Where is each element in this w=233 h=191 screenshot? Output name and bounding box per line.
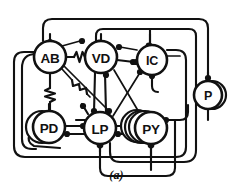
- node-pd-label: PD: [40, 121, 59, 136]
- edge-vd-lp-left: [94, 73, 95, 112]
- node-lp-label: LP: [92, 122, 109, 137]
- figure-caption: (a): [0, 168, 233, 183]
- synapse-dot-ic-vd: [116, 44, 122, 50]
- node-py-label: PY: [142, 122, 160, 137]
- node-vd-label: VD: [92, 51, 111, 66]
- edge-ab-vd-syn: [62, 41, 80, 46]
- synapse-dot-ab-vd: [79, 38, 85, 44]
- gap-junction-ab-vd-icon: [74, 52, 85, 62]
- edge-ab-lp: [62, 69, 72, 80]
- node-ab-label: AB: [40, 51, 60, 66]
- node-p-label: P: [204, 89, 212, 103]
- gap-junction-ab-pd-icon: [45, 88, 55, 102]
- edge-ic-vd: [120, 47, 137, 50]
- bus-right-trunk: [167, 105, 188, 120]
- node-ic-label: IC: [146, 54, 158, 68]
- circuit-figure: AB VD IC P PD LP PY (a): [0, 0, 233, 191]
- edge-ab-lp-b: [87, 94, 90, 97]
- synapse-dot-lp-up: [80, 103, 86, 109]
- circuit-diagram-svg: AB VD IC P PD LP PY: [0, 0, 233, 191]
